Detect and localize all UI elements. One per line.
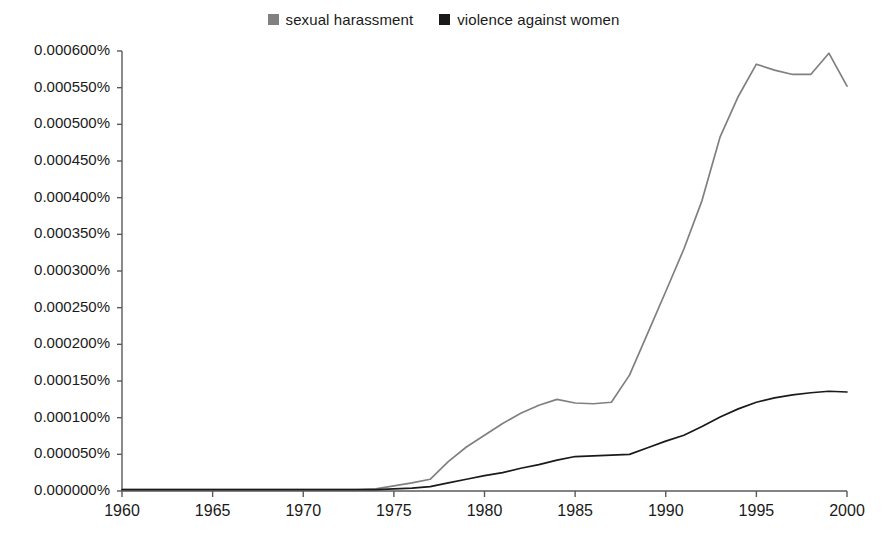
y-tick-label: 0.000500% [34,114,110,131]
x-tick-label: 1995 [739,502,775,519]
x-tick-label: 1990 [648,502,684,519]
y-tick-label: 0.000150% [34,371,110,388]
y-tick-label: 0.000200% [34,334,110,351]
axis-tick-marks [117,51,847,497]
y-tick-label: 0.000450% [34,151,110,168]
series-line-violence-against-women [122,391,847,489]
x-tick-label: 1975 [376,502,412,519]
y-tick-label: 0.000100% [34,408,110,425]
y-tick-label: 0.000300% [34,261,110,278]
y-tick-label: 0.000350% [34,224,110,241]
y-tick-label: 0.000050% [34,444,110,461]
x-tick-label: 1980 [467,502,503,519]
series-line-sexual-harassment [122,53,847,489]
y-tick-label: 0.000250% [34,298,110,315]
x-axis-tick-labels: 196019651970197519801985199019952000 [104,502,865,519]
line-chart: sexual harassment violence against women… [0,0,887,540]
y-tick-label: 0.000600% [34,41,110,58]
x-tick-label: 1985 [557,502,593,519]
y-tick-label: 0.000400% [34,188,110,205]
x-tick-label: 2000 [829,502,865,519]
x-tick-label: 1965 [195,502,231,519]
x-tick-label: 1970 [285,502,321,519]
x-tick-label: 1960 [104,502,140,519]
y-tick-label: 0.000550% [34,78,110,95]
y-axis-tick-labels: 0.000600%0.000550%0.000500%0.000450%0.00… [34,41,110,498]
y-tick-label: 0.000000% [34,481,110,498]
plot-area: 0.000600%0.000550%0.000500%0.000450%0.00… [0,0,887,540]
